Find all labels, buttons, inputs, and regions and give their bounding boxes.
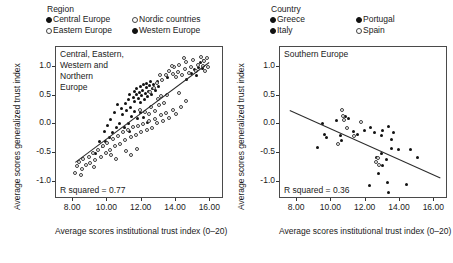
scatter-point: [363, 129, 366, 132]
scatter-point: [387, 125, 390, 128]
scatter-point: [137, 97, 140, 100]
x-axis-label: Average scores institutional trust index…: [55, 226, 223, 237]
scatter-point: [340, 108, 344, 112]
x-tick-label: 8.00: [278, 202, 314, 212]
figure-two-panel-scatter: Region Central Europe Nordic countries E…: [0, 0, 453, 263]
marker-filled-icon: [46, 17, 52, 23]
scatter-point: [123, 138, 127, 142]
scatter-point: [416, 156, 419, 159]
scatter-point: [132, 96, 135, 99]
scatter-point: [392, 131, 395, 134]
scatter-point: [345, 126, 349, 130]
y-tick-mark: [52, 95, 55, 96]
scatter-point: [336, 142, 340, 146]
legend-label: Italy: [277, 25, 293, 36]
scatter-point: [134, 133, 138, 137]
x-tick-label: 14.00: [381, 202, 417, 212]
legend-title: Region: [47, 4, 226, 14]
scatter-point: [342, 118, 346, 122]
legend-label: Spain: [363, 25, 385, 36]
legend-label: Portugal: [363, 14, 395, 25]
scatter-point: [124, 149, 128, 153]
scatter-point: [142, 116, 145, 119]
scatter-point: [133, 110, 136, 113]
scatter-point: [106, 124, 109, 127]
scatter-point: [128, 93, 131, 96]
x-tick-mark: [209, 198, 210, 201]
scatter-point: [145, 128, 149, 132]
marker-filled-icon: [270, 17, 276, 23]
scatter-point: [176, 70, 180, 74]
marker-filled-icon: [356, 17, 362, 23]
scatter-point: [120, 107, 123, 110]
scatter-point: [139, 101, 142, 104]
scatter-point: [325, 136, 328, 139]
scatter-point: [105, 141, 109, 145]
x-tick-mark: [175, 198, 176, 201]
scatter-point: [129, 153, 133, 157]
scatter-point: [373, 131, 376, 134]
legend-label: Central Europe: [53, 14, 110, 25]
scatter-point: [347, 117, 350, 120]
y-tick-label: -0.5: [246, 146, 275, 156]
scatter-point: [390, 138, 393, 141]
scatter-point: [356, 133, 359, 136]
scatter-point: [87, 155, 91, 159]
legend-item-eastern-europe: Eastern Europe: [46, 25, 132, 36]
y-tick-mark: [52, 66, 55, 67]
panel-title: Central, Eastern, Western and Northern E…: [60, 49, 124, 93]
scatter-point: [381, 164, 384, 167]
regression-line: [290, 110, 441, 179]
scatter-point: [103, 130, 106, 133]
scatter-point: [124, 102, 127, 105]
scatter-point: [164, 111, 168, 115]
scatter-point: [150, 126, 154, 130]
scatter-point: [152, 86, 156, 90]
legend-item-italy: Italy: [270, 25, 356, 36]
scatter-point: [116, 103, 119, 106]
y-tick-mark: [52, 152, 55, 153]
marker-open-icon: [356, 28, 362, 34]
scatter-point: [141, 122, 145, 126]
scatter-point: [206, 65, 210, 69]
marker-filled-icon: [132, 28, 138, 34]
legend-item-western-europe: Western Europe: [132, 25, 226, 36]
x-tick-mark: [330, 198, 331, 201]
x-tick-mark: [399, 198, 400, 201]
x-axis-label: Average scores institutional trust index…: [279, 226, 447, 237]
legend-label: Western Europe: [139, 25, 200, 36]
scatter-point: [131, 125, 135, 129]
y-tick-mark: [276, 181, 279, 182]
x-tick-label: 12.00: [347, 202, 383, 212]
scatter-point: [104, 151, 108, 155]
scatter-point: [129, 135, 133, 139]
legend-label: Nordic countries: [139, 14, 200, 25]
x-tick-label: 10.00: [312, 202, 348, 212]
scatter-point: [125, 109, 128, 112]
marker-open-icon: [132, 17, 138, 23]
scatter-point: [377, 172, 380, 175]
scatter-point: [133, 100, 136, 103]
scatter-point: [155, 121, 159, 125]
scatter-point: [139, 85, 142, 88]
scatter-point: [118, 122, 121, 125]
x-tick-label: 14.00: [157, 202, 193, 212]
scatter-point: [135, 147, 139, 151]
marker-filled-icon: [270, 28, 276, 34]
x-tick-mark: [106, 198, 107, 201]
y-tick-label: 0.5: [22, 89, 51, 99]
y-tick-label: 1.0: [246, 60, 275, 70]
legend-item-greece: Greece: [270, 14, 356, 25]
scatter-point: [153, 117, 157, 121]
scatter-point: [109, 153, 113, 157]
plot-area-left: Central, Eastern, Western and Northern E…: [55, 46, 223, 198]
scatter-point: [387, 191, 390, 194]
scatter-point: [380, 134, 383, 137]
scatter-point: [111, 137, 115, 141]
scatter-point: [167, 116, 171, 120]
scatter-point: [179, 105, 183, 109]
x-tick-label: 8.00: [54, 202, 90, 212]
scatter-point: [162, 101, 166, 105]
y-tick-mark: [276, 95, 279, 96]
y-tick-label: 1.0: [22, 60, 51, 70]
